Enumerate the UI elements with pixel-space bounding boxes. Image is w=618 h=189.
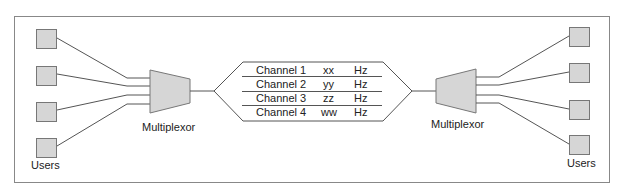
channel-name: Channel 3 bbox=[256, 92, 306, 104]
channel-name: Channel 4 bbox=[256, 106, 306, 118]
user-box bbox=[570, 101, 590, 120]
channel-value: zz bbox=[323, 92, 334, 104]
channel-name: Channel 2 bbox=[256, 78, 306, 90]
left-multiplexor-label: Multiplexor bbox=[142, 121, 196, 133]
left-users bbox=[37, 30, 57, 158]
right-multiplexor bbox=[436, 69, 476, 113]
channel-unit: Hz bbox=[354, 106, 367, 118]
right-multiplexor-label: Multiplexor bbox=[431, 118, 485, 130]
user-box bbox=[37, 103, 57, 122]
channel-value: ww bbox=[320, 106, 337, 118]
user-box bbox=[570, 64, 590, 83]
channel-value: xx bbox=[323, 64, 335, 76]
channel-unit: Hz bbox=[354, 64, 367, 76]
multiplexing-diagram: Channel 1 xx Hz Channel 2 yy Hz Channel … bbox=[0, 0, 618, 189]
left-multiplexor bbox=[150, 70, 190, 113]
user-box bbox=[570, 28, 590, 47]
left-user-lines bbox=[57, 38, 150, 146]
user-box bbox=[570, 136, 590, 155]
channel-unit: Hz bbox=[354, 78, 367, 90]
user-box bbox=[37, 139, 57, 158]
right-users-label: Users bbox=[567, 157, 596, 169]
right-users bbox=[570, 28, 590, 155]
channel-unit: Hz bbox=[354, 92, 367, 104]
channel-value: yy bbox=[323, 78, 335, 90]
right-user-lines bbox=[476, 36, 569, 144]
user-box bbox=[37, 30, 57, 49]
left-users-label: Users bbox=[31, 159, 60, 171]
channel-name: Channel 1 bbox=[256, 64, 306, 76]
user-box bbox=[37, 67, 57, 86]
